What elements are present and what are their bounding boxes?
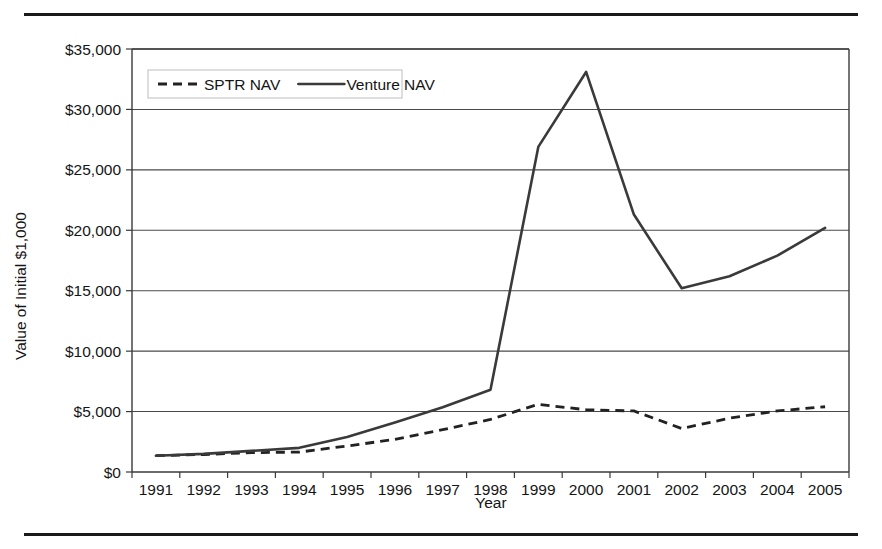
x-tick-label: 2001	[617, 481, 651, 498]
figure-page: $0$5,000$10,000$15,000$20,000$25,000$30,…	[0, 0, 882, 549]
x-tick-label: 1994	[282, 481, 317, 498]
y-tick-label: $15,000	[65, 282, 121, 299]
y-axis-label: Value of Initial $1,000	[12, 212, 29, 360]
x-tick-label: 2005	[808, 481, 842, 498]
x-tick-label: 1999	[521, 481, 555, 498]
y-tick-label: $35,000	[65, 41, 121, 58]
y-tick-label: $25,000	[65, 161, 121, 178]
data-series-group	[156, 72, 825, 456]
y-tick-label: $0	[104, 464, 122, 481]
y-tick-label: $20,000	[65, 222, 121, 239]
line-chart-figure: $0$5,000$10,000$15,000$20,000$25,000$30,…	[0, 24, 882, 524]
x-tick-marks-group	[132, 472, 849, 478]
x-tick-label: 1995	[330, 481, 364, 498]
chart-legend: SPTR NAVVenture NAV	[148, 70, 435, 98]
legend-label-venture-nav: Venture NAV	[346, 76, 435, 93]
y-tick-label: $5,000	[74, 403, 122, 420]
x-tick-label: 1993	[234, 481, 268, 498]
x-tick-label: 2003	[712, 481, 746, 498]
legend-label-sptr-nav: SPTR NAV	[204, 76, 281, 93]
y-tick-label: $10,000	[65, 343, 121, 360]
y-tick-marks-group	[126, 49, 132, 472]
x-tick-label: 1996	[378, 481, 412, 498]
y-tick-label: $30,000	[65, 101, 121, 118]
x-tick-label: 1992	[186, 481, 220, 498]
y-tick-labels-group: $0$5,000$10,000$15,000$20,000$25,000$30,…	[65, 41, 121, 481]
chart-canvas: $0$5,000$10,000$15,000$20,000$25,000$30,…	[0, 24, 882, 524]
x-axis-label: Year	[475, 494, 506, 511]
x-tick-label: 1991	[139, 481, 173, 498]
x-tick-label: 2002	[664, 481, 698, 498]
gridlines-group	[132, 49, 849, 412]
bottom-horizontal-rule	[24, 533, 858, 536]
x-tick-label: 1997	[425, 481, 459, 498]
top-horizontal-rule	[24, 13, 858, 16]
series-line-venture-nav	[156, 72, 825, 456]
x-tick-label: 2000	[569, 481, 604, 498]
x-tick-label: 2004	[760, 481, 795, 498]
